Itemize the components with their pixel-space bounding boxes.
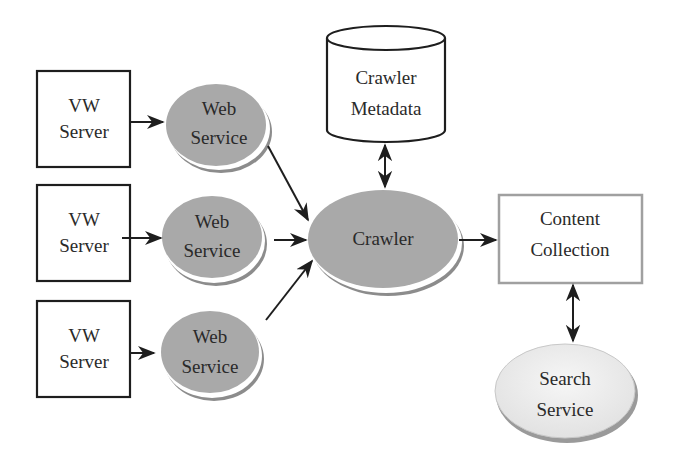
vw-server-label-2a: VW [68, 209, 100, 230]
web-service-label-3a: Web [193, 326, 227, 347]
crawler-node: Crawler [308, 190, 464, 296]
content-collection-label-a: Content [540, 208, 601, 229]
web-service-label-1a: Web [202, 98, 236, 119]
architecture-diagram: VW Server VW Server VW Server Web Servic… [0, 0, 677, 467]
web-service-label-1b: Service [191, 127, 248, 148]
web-service-node-2: Web Service [162, 196, 267, 286]
vw-server-label-3b: Server [59, 351, 109, 372]
search-service-node: Search Service [495, 344, 638, 443]
vw-server-label-1a: VW [68, 95, 100, 116]
crawler-metadata-label-a: Crawler [355, 67, 417, 88]
web-service-node-1: Web Service [166, 84, 272, 173]
search-service-label-a: Search [539, 368, 591, 389]
web-service-label-3b: Service [182, 356, 239, 377]
vw-server-label-3a: VW [68, 325, 100, 346]
vw-server-label-2b: Server [59, 235, 109, 256]
edge-ws1-to-crawler [268, 146, 308, 220]
edge-ws3-to-crawler [266, 261, 312, 320]
crawler-metadata-label-b: Metadata [351, 98, 422, 119]
web-service-node-3: Web Service [161, 311, 264, 401]
content-collection-node: Content Collection [499, 195, 642, 283]
vw-server-node-1: VW Server [37, 71, 130, 167]
search-service-label-b: Service [537, 399, 594, 420]
vw-server-label-1b: Server [59, 121, 109, 142]
web-service-label-2b: Service [184, 240, 241, 261]
content-collection-label-b: Collection [530, 239, 610, 260]
vw-server-node-3: VW Server [37, 301, 130, 397]
crawler-label: Crawler [352, 228, 414, 249]
vw-server-node-2: VW Server [37, 185, 130, 281]
web-service-label-2a: Web [195, 211, 229, 232]
crawler-metadata-database: Crawler Metadata [327, 26, 445, 142]
